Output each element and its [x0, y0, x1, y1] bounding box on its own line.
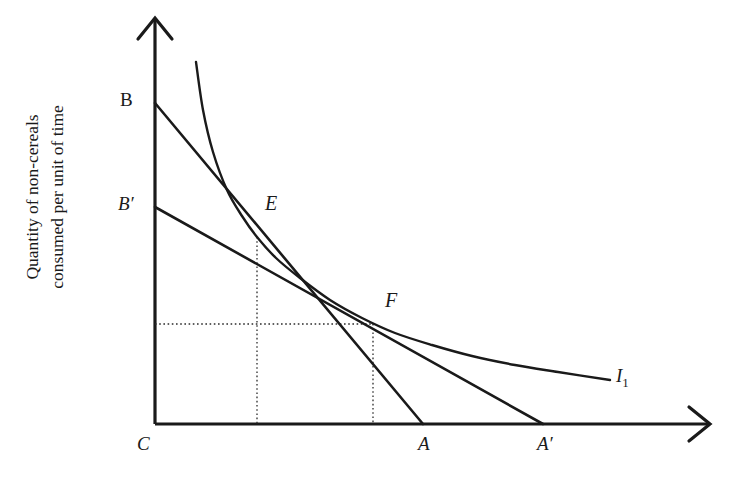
- point-label-Ap: A′: [537, 434, 553, 453]
- indifference-curve-I1: [196, 62, 610, 380]
- point-label-A-letter: A: [418, 433, 430, 454]
- point-label-Bp: B′: [118, 194, 134, 213]
- point-label-E: E: [265, 193, 277, 213]
- indifference-curve-figure: Quantity of non-cereals consumed per uni…: [0, 0, 729, 483]
- point-label-E-letter: E: [265, 192, 277, 214]
- guide-lines-group: [155, 237, 373, 424]
- point-label-F-letter: F: [385, 289, 397, 311]
- point-label-F: F: [385, 290, 397, 310]
- point-label-Ap-letter: A: [537, 433, 549, 454]
- budget-line-BudgetlineBA: [155, 103, 423, 424]
- data-series-group: [155, 62, 610, 424]
- curve-label-subscript: 1: [622, 375, 628, 390]
- indifference-curve-label: I1: [616, 366, 629, 390]
- point-label-B: B: [120, 90, 133, 109]
- point-label-Ap-prime: ′: [549, 433, 553, 454]
- budget-line-BudgetlineBA: [155, 207, 543, 424]
- point-label-Bp-letter: B: [118, 193, 130, 214]
- point-label-C-letter: C: [137, 433, 150, 454]
- point-label-C: C: [137, 434, 150, 453]
- plot-canvas: [0, 0, 729, 483]
- point-label-B-letter: B: [120, 89, 133, 110]
- point-label-A: A: [418, 434, 430, 453]
- point-label-Bp-prime: ′: [130, 193, 134, 214]
